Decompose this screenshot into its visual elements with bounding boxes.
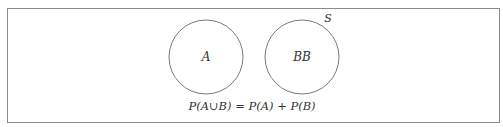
set-b-label: BB xyxy=(292,50,311,64)
probability-formula: P(A∪B) = P(A) + P(B) xyxy=(187,99,315,113)
sample-space-label: S xyxy=(324,12,332,25)
venn-diagram: A BB S P(A∪B) = P(A) + P(B) xyxy=(0,0,503,127)
set-a-label: A xyxy=(201,50,211,64)
